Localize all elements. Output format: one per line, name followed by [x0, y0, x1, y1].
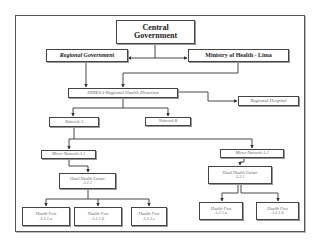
- node-network-a: Network A: [49, 117, 99, 127]
- node-label: Regional Government: [60, 52, 115, 58]
- node-label-line2: Government: [134, 32, 177, 40]
- node-label: Micro-Network A.1: [52, 152, 85, 157]
- node-label: Micro-Network A.2: [235, 151, 268, 156]
- node-micro-network-a1: Micro-Network A.1: [41, 150, 96, 159]
- node-health-post-a21b: Health Post A.2.1.b: [256, 202, 299, 220]
- node-label: Network A: [65, 120, 83, 125]
- node-regional-hospital: Regional Hospital: [238, 96, 299, 106]
- node-label-line2: A.1.1.a: [40, 217, 52, 222]
- node-label: DIRESA-Regional Health Direction: [87, 90, 159, 95]
- node-health-post-a11c: Health Post A.1.1.c: [131, 207, 167, 226]
- diagram-canvas: Central Government Regional Government M…: [0, 0, 323, 244]
- node-label-line2: A.2.1.a: [215, 211, 227, 216]
- node-label: Ministry of Health - Lima: [205, 52, 271, 58]
- node-health-post-a21a: Health Post A.2.1.a: [199, 202, 243, 220]
- node-label-line2: A.2.1.b: [271, 211, 283, 216]
- node-regional-government: Regional Government: [46, 49, 128, 62]
- node-diresa: DIRESA-Regional Health Direction: [68, 88, 178, 98]
- node-central-government: Central Government: [116, 20, 195, 44]
- node-label-line2: A.1.1.c: [143, 217, 155, 222]
- node-label: Regional Hospital: [250, 98, 287, 103]
- node-label: Network B: [159, 119, 177, 124]
- node-micro-network-a2: Micro-Network A.2: [220, 149, 284, 158]
- node-label-line2: A.1.1: [83, 181, 92, 186]
- node-label-line2: A.2.1: [235, 175, 244, 180]
- node-head-health-center-a21: Head Health Center A.2.1: [208, 166, 272, 184]
- node-network-b: Network B: [145, 117, 191, 126]
- node-health-post-a11b: Health Post A.1.1.b: [74, 207, 122, 226]
- node-health-post-a11a: Health Post A.1.1.a: [22, 207, 70, 226]
- node-label-line2: A.1.1.b: [92, 217, 104, 222]
- node-head-health-center-a11: Head Health Center A.1.1: [59, 173, 116, 189]
- node-ministry-of-health: Ministry of Health - Lima: [188, 49, 289, 62]
